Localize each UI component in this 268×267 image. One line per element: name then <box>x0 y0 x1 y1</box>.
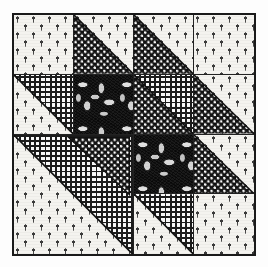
quilt-grid <box>14 15 254 254</box>
patch-r1c4 <box>194 15 254 75</box>
patch-r3c3 <box>134 135 194 195</box>
fabric-leaf <box>134 135 193 194</box>
patch-r2c2 <box>74 75 134 135</box>
fabric-sprig <box>194 15 254 74</box>
patch-r1c3 <box>134 15 194 75</box>
figure-page <box>0 0 268 267</box>
patch-r1c1 <box>14 15 74 75</box>
patch-r1c2 <box>74 15 134 75</box>
patch-r3c1-large <box>14 135 134 255</box>
patch-r2c3 <box>134 75 194 135</box>
patch-r2c1 <box>14 75 74 135</box>
patch-r4c3 <box>134 194 194 254</box>
patch-r2c4 <box>194 75 254 135</box>
fabric-sprig <box>14 15 73 74</box>
fabric-leaf <box>74 75 133 134</box>
fabric-sprig <box>194 194 254 254</box>
patch-r4c4 <box>194 194 254 254</box>
patch-r3c4 <box>194 135 254 195</box>
quilt-block <box>12 13 256 256</box>
